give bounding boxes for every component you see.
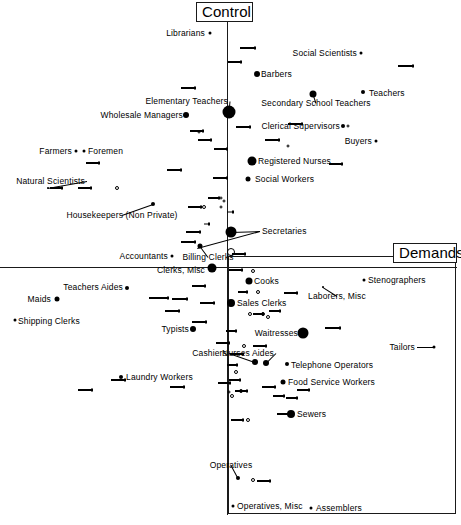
data-point-maids [55,297,60,302]
open-circle-marker [261,312,265,316]
whisker-segment [229,269,241,271]
whisker-tick [232,211,234,214]
whisker-segment [86,162,98,164]
whisker-tick [186,298,188,301]
point-label-buyers: Buyers [345,136,372,146]
data-point-laborers-misc [322,286,324,288]
whisker-tick [235,330,237,333]
whisker-tick [308,389,310,392]
point-label-food-service-workers: Food Service Workers [288,377,375,387]
data-point-barbers [254,71,260,77]
data-point-registered-nurses [248,157,257,166]
open-circle-marker [202,205,206,209]
demands-axis-title: Demands [393,243,457,263]
data-point-social-workers [246,177,251,182]
whisker-tick [226,148,228,151]
whisker-tick [296,292,298,295]
data-point-farmers [75,150,78,153]
data-point-nurses-aides [263,360,269,366]
point-label-secretaries: Secretaries [262,226,307,236]
data-point-cashiers [252,359,258,365]
whisker-segment [265,139,278,141]
point-label-assemblers: Assemblers [316,503,362,513]
open-circle-marker [251,478,255,482]
whisker-tick [90,187,92,190]
whisker-tick [199,231,201,234]
whisker-tick [61,187,63,190]
point-label-barbers: Barbers [261,69,292,79]
data-point-accountants [171,255,174,258]
whisker-tick [236,364,238,367]
open-circle-marker [248,312,252,316]
whisker-tick [246,390,248,393]
point-label-sales-clerks: Sales Clerks [237,298,287,308]
whisker-segment [170,386,183,388]
point-label-librarians: Librarians [166,28,205,38]
control-axis-title: Control [196,2,253,22]
data-point-cooks [246,278,253,285]
data-point-food-service-workers [281,380,286,385]
whisker-tick [202,130,204,133]
point-label-typists: Typists [161,324,189,334]
whisker-segment [214,148,226,150]
whisker-tick [341,163,343,166]
whisker-segment [226,330,235,332]
data-point-clerical-supervisors [341,124,345,128]
whisker-tick [412,65,414,68]
whisker-segment [253,345,265,347]
whisker-tick [339,327,341,330]
whisker-segment [227,364,236,366]
whisker-segment [231,419,242,421]
whisker-segment [200,302,213,304]
point-label-teachers: Teachers [369,88,405,98]
whisker-tick [283,395,285,398]
whisker-tick [226,177,228,180]
data-point-telephone-operators [285,362,289,366]
whisker-tick [240,61,242,64]
point-label-housekeepers-non-private: Housekeepers (Non Private) [66,210,177,220]
point-label-accountants: Accountants [120,251,168,261]
whisker-tick [296,397,298,400]
whisker-tick [183,386,185,389]
whisker-tick [269,480,271,483]
open-circle-marker [347,125,350,128]
point-label-laundry-workers: Laundry Workers [126,372,193,382]
point-label-shipping-clerks: Shipping Clerks [18,316,80,326]
open-circle-marker [246,418,250,422]
open-circle-marker [115,186,119,190]
point-label-billing-clerks: Billing Clerks [182,252,233,262]
point-label-registered-nurses: Registered Nurses [258,156,331,166]
whisker-tick [204,285,206,288]
point-label-operatives-misc: Operatives, Misc [237,501,303,511]
point-label-natural-scientists: Natural Scientists [16,176,85,186]
point-label-stenographers: Stenographers [368,275,426,285]
open-circle-marker [251,269,255,273]
data-point-assemblers [310,507,313,510]
whisker-tick [194,241,196,244]
whisker-segment [181,241,194,243]
point-label-social-workers: Social Workers [255,174,314,184]
data-point-housekeepers-non-private [151,202,155,206]
point-label-maids: Maids [28,294,51,304]
point-label-telephone-operators: Telephone Operators [291,360,373,370]
whisker-segment [240,47,254,49]
whisker-segment [286,397,296,399]
whisker-segment [228,61,240,63]
open-circle-marker [266,315,270,319]
whisker-segment [186,231,199,233]
whisker-tick [244,253,246,256]
whisker-tick [210,139,212,142]
point-label-sewers: Sewers [297,409,326,419]
scatter-chart: Control Demands LibrariansSocial Scienti… [0,0,461,525]
point-label-cooks: Cooks [254,276,279,286]
point-label-teachers-aides: Teachers Aides [63,282,123,292]
whisker-segment [149,297,167,299]
whisker-tick [208,223,210,226]
open-circle-marker [239,389,243,393]
data-point-foremen [83,150,86,153]
point-label-operatives: Operatives [210,460,253,470]
whisker-segment [325,327,339,329]
whisker-tick [98,162,100,165]
whisker-tick [278,139,280,142]
whisker-segment [192,321,205,323]
